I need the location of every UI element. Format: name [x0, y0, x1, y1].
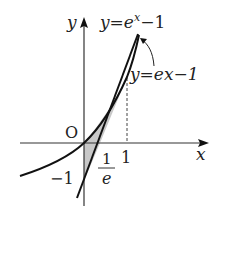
exp-curve-label: y=ex−1 — [99, 11, 165, 32]
tangent-line-label: y=ex−1 — [129, 64, 199, 84]
origin-label: O — [65, 123, 78, 142]
tick-x-intercept-denominator: e — [102, 169, 111, 188]
x-axis-label: x — [196, 144, 206, 164]
pointer-arrow — [142, 40, 154, 66]
tick-x-intercept-numerator: 1 — [102, 150, 112, 168]
tick-y-minus-one: −1 — [50, 169, 74, 188]
tick-x-one: 1 — [121, 148, 131, 167]
y-axis-label: y — [66, 12, 77, 32]
graph-figure: y x O y=ex−1 y=ex−1 1 −1 1 e — [0, 0, 227, 256]
